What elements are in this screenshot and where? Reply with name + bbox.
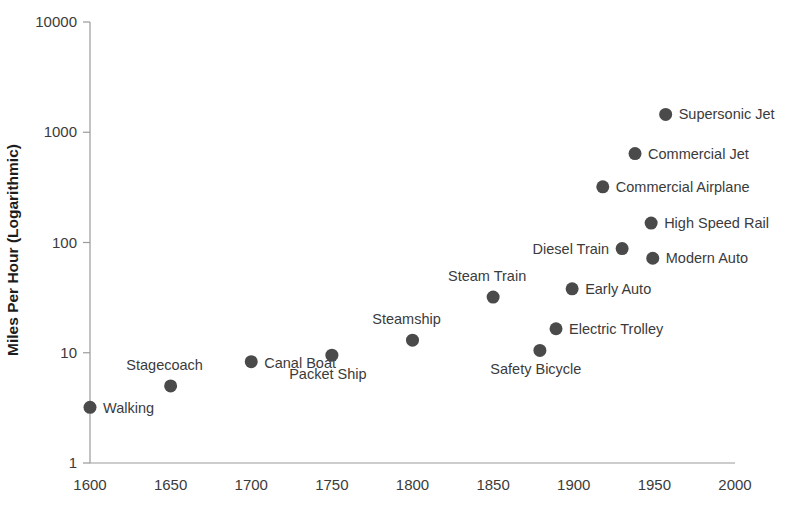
data-point-marker[interactable] [616, 242, 629, 255]
data-point-marker[interactable] [645, 217, 658, 230]
data-point-marker[interactable] [487, 291, 500, 304]
data-point[interactable]: Stagecoach [126, 357, 203, 393]
data-point-label: Modern Auto [666, 250, 748, 266]
x-tick-label: 2000 [718, 476, 751, 493]
data-point-label: Packet Ship [289, 366, 366, 382]
data-point-marker[interactable] [325, 349, 338, 362]
data-point-label: Safety Bicycle [490, 361, 581, 377]
axes-group [90, 22, 735, 463]
data-point-marker[interactable] [629, 147, 642, 160]
data-point[interactable]: Steamship [372, 311, 441, 347]
data-point-marker[interactable] [566, 282, 579, 295]
data-point-label: Diesel Train [533, 241, 610, 257]
data-point-marker[interactable] [533, 344, 546, 357]
data-point-label: Commercial Jet [648, 146, 749, 162]
x-tick-label: 1700 [235, 476, 268, 493]
data-point-marker[interactable] [550, 322, 563, 335]
transport-speed-scatter-chart: 100001000100101 160016501700175018001850… [0, 0, 789, 510]
data-point[interactable]: High Speed Rail [645, 215, 769, 231]
x-tick-label: 1950 [638, 476, 671, 493]
axis-lines [90, 22, 735, 463]
x-tick-label: 1650 [154, 476, 187, 493]
data-point-marker[interactable] [84, 401, 97, 414]
data-point-label: Steam Train [448, 268, 526, 284]
data-point[interactable]: Steam Train [448, 268, 526, 304]
x-tick-label: 1600 [73, 476, 106, 493]
data-point[interactable]: Walking [84, 400, 155, 416]
data-point-label: Commercial Airplane [616, 179, 750, 195]
x-tick-label: 1800 [396, 476, 429, 493]
data-point[interactable]: Electric Trolley [550, 321, 665, 337]
data-points-group: WalkingStagecoachCanal BoatPacket ShipSt… [84, 106, 775, 416]
data-point-label: Stagecoach [126, 357, 203, 373]
x-axis-ticks: 160016501700175018001850190019502000 [73, 476, 751, 493]
x-tick-label: 1850 [476, 476, 509, 493]
data-point-marker[interactable] [659, 108, 672, 121]
x-tick-label: 1750 [315, 476, 348, 493]
data-point-label: Supersonic Jet [679, 106, 775, 122]
data-point[interactable]: Supersonic Jet [659, 106, 774, 122]
data-point[interactable]: Diesel Train [533, 241, 629, 257]
chart-canvas: 100001000100101 160016501700175018001850… [0, 0, 789, 510]
x-tick-label: 1900 [557, 476, 590, 493]
y-tick-label: 1 [69, 454, 77, 471]
y-axis-ticks: 100001000100101 [35, 13, 90, 471]
data-point-marker[interactable] [596, 180, 609, 193]
data-point[interactable]: Safety Bicycle [490, 344, 581, 378]
data-point-label: High Speed Rail [664, 215, 769, 231]
data-point-marker[interactable] [646, 252, 659, 265]
data-point-label: Early Auto [585, 281, 651, 297]
data-point-label: Steamship [372, 311, 441, 327]
data-point-label: Electric Trolley [569, 321, 664, 337]
data-point[interactable]: Modern Auto [646, 250, 748, 266]
data-point-marker[interactable] [406, 334, 419, 347]
y-tick-label: 10000 [35, 13, 77, 30]
y-tick-label: 10 [60, 344, 77, 361]
data-point[interactable]: Early Auto [566, 281, 652, 297]
y-tick-label: 1000 [44, 123, 77, 140]
data-point-label: Walking [103, 400, 154, 416]
data-point-marker[interactable] [245, 355, 258, 368]
data-point[interactable]: Commercial Airplane [596, 179, 749, 195]
y-axis-title: Miles Per Hour (Logarithmic) [4, 144, 21, 356]
data-point[interactable]: Commercial Jet [629, 146, 749, 162]
y-tick-label: 100 [52, 234, 77, 251]
data-point-marker[interactable] [164, 379, 177, 392]
